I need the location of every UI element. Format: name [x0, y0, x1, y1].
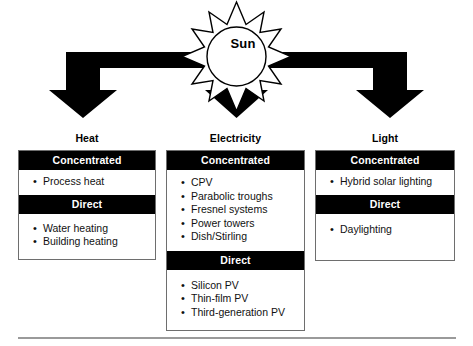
- section-header-light-direct: Direct: [316, 195, 454, 214]
- list-item-label: Thin-film PV: [191, 292, 248, 304]
- solar-energy-pathways-diagram: Sun Heat Concentrated • Process heat Dir…: [0, 0, 473, 346]
- list-item-label: Fresnel systems: [191, 203, 267, 215]
- list-item-label: Silicon PV: [191, 279, 239, 291]
- list-item: • Parabolic troughs: [167, 190, 304, 204]
- section-items-heat-direct: • Water heating • Building heating: [19, 214, 155, 259]
- list-item-label: Daylighting: [340, 223, 392, 235]
- list-item: • Dish/Stirling: [167, 230, 304, 244]
- list-item: • Process heat: [19, 175, 155, 189]
- list-item: • Water heating: [19, 222, 155, 236]
- list-item-label: Third-generation PV: [191, 306, 285, 318]
- column-title-heat: Heat: [18, 132, 156, 144]
- list-item: • Daylighting: [316, 223, 454, 237]
- list-item-label: Building heating: [43, 235, 118, 247]
- bullet-icon: •: [33, 222, 37, 236]
- list-item: • Fresnel systems: [167, 203, 304, 217]
- list-item: • Silicon PV: [167, 279, 304, 293]
- section-items-electricity-concentrated: • CPV • Parabolic troughs • Fresnel syst…: [167, 170, 304, 251]
- footer-divider: [18, 337, 456, 339]
- section-header-light-concentrated: Concentrated: [316, 151, 454, 170]
- sun-label: Sun: [215, 37, 271, 51]
- list-item-label: Process heat: [43, 175, 104, 187]
- list-item-label: Parabolic troughs: [191, 190, 273, 202]
- list-item: • Third-generation PV: [167, 306, 304, 320]
- bullet-icon: •: [181, 230, 185, 244]
- bullet-icon: •: [181, 190, 185, 204]
- list-item: • CPV: [167, 176, 304, 190]
- section-items-heat-concentrated: • Process heat: [19, 170, 155, 195]
- section-items-light-concentrated: • Hybrid solar lighting: [316, 170, 454, 195]
- bullet-icon: •: [33, 235, 37, 249]
- section-header-electricity-direct: Direct: [167, 251, 304, 270]
- list-item-label: CPV: [191, 176, 213, 188]
- column-heat: Concentrated • Process heat Direct • Wat…: [18, 150, 156, 260]
- column-title-light: Light: [315, 132, 455, 144]
- section-items-light-direct: • Daylighting: [316, 214, 454, 261]
- list-item-label: Dish/Stirling: [191, 230, 247, 242]
- section-header-heat-direct: Direct: [19, 195, 155, 214]
- column-title-electricity: Electricity: [166, 132, 305, 144]
- bullet-icon: •: [181, 279, 185, 293]
- bullet-icon: •: [181, 203, 185, 217]
- bullet-icon: •: [181, 306, 185, 320]
- list-item: • Hybrid solar lighting: [316, 175, 454, 189]
- distribution-arrows: [0, 0, 473, 125]
- section-items-electricity-direct: • Silicon PV • Thin-film PV • Third-gene…: [167, 270, 304, 331]
- bullet-icon: •: [181, 217, 185, 231]
- bullet-icon: •: [330, 223, 334, 237]
- list-item: • Power towers: [167, 217, 304, 231]
- section-header-electricity-concentrated: Concentrated: [167, 151, 304, 170]
- list-item-label: Power towers: [191, 217, 255, 229]
- section-header-heat-concentrated: Concentrated: [19, 151, 155, 170]
- bullet-icon: •: [330, 175, 334, 189]
- bullet-icon: •: [181, 292, 185, 306]
- list-item: • Thin-film PV: [167, 292, 304, 306]
- column-electricity: Concentrated • CPV • Parabolic troughs •…: [166, 150, 305, 331]
- bullet-icon: •: [181, 176, 185, 190]
- bullet-icon: •: [33, 175, 37, 189]
- list-item: • Building heating: [19, 235, 155, 249]
- column-light: Concentrated • Hybrid solar lighting Dir…: [315, 150, 455, 261]
- list-item-label: Hybrid solar lighting: [340, 175, 432, 187]
- list-item-label: Water heating: [43, 222, 108, 234]
